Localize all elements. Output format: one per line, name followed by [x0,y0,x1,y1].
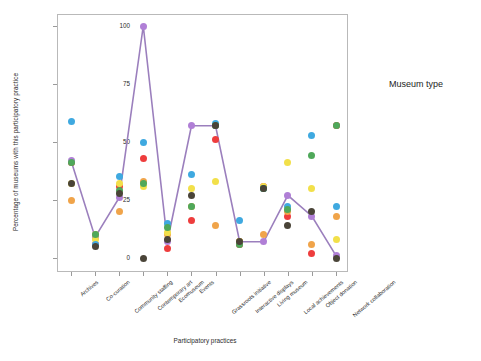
y-tick-label: 25 [90,196,130,203]
data-point [116,180,123,187]
x-tick-mark [240,272,241,276]
y-tick-mark [53,84,57,85]
data-point [140,180,147,187]
data-point [140,255,147,262]
data-point [116,190,123,197]
data-point [140,23,147,30]
x-tick-mark [336,272,337,276]
y-tick-label: 100 [90,22,130,29]
data-point [116,208,123,215]
x-tick-mark [288,272,289,276]
y-tick-mark [53,26,57,27]
y-axis-title: Percentage of museums with this particip… [12,32,19,272]
data-point [140,139,147,146]
y-tick-mark [53,258,57,259]
x-tick-label: Co-curation [105,279,131,302]
x-tick-mark [312,272,313,276]
y-tick-label: 0 [90,254,130,261]
legend-title: Museum type [389,79,443,89]
data-point [188,171,195,178]
x-tick-mark [191,272,192,276]
data-point [68,180,75,187]
data-point [333,255,340,262]
x-tick-mark [95,272,96,276]
x-axis-title: Participatory practices [120,337,290,344]
data-point [188,185,195,192]
data-point [308,132,315,139]
data-point [164,236,171,243]
y-tick-label: 50 [90,138,130,145]
data-point [333,122,340,129]
x-tick-mark [264,272,265,276]
x-tick-mark [143,272,144,276]
data-point [333,236,340,243]
x-tick-label: Archives [79,279,99,297]
x-tick-mark [167,272,168,276]
data-point [188,192,195,199]
data-point [92,231,99,238]
x-tick-label: Grassroots initiative [230,279,271,315]
x-tick-mark [216,272,217,276]
data-point [92,243,99,250]
data-point [308,241,315,248]
data-point [333,213,340,220]
y-tick-label: 75 [90,80,130,87]
data-point [68,118,75,125]
y-tick-mark [53,200,57,201]
data-point [140,155,147,162]
data-point [116,173,123,180]
data-point [68,197,75,204]
data-point [212,222,219,229]
x-tick-label: Network collaboration [352,279,397,318]
x-tick-mark [71,272,72,276]
data-point [68,159,75,166]
x-tick-mark [119,272,120,276]
data-point [333,203,340,210]
y-tick-mark [53,142,57,143]
data-point [212,178,219,185]
